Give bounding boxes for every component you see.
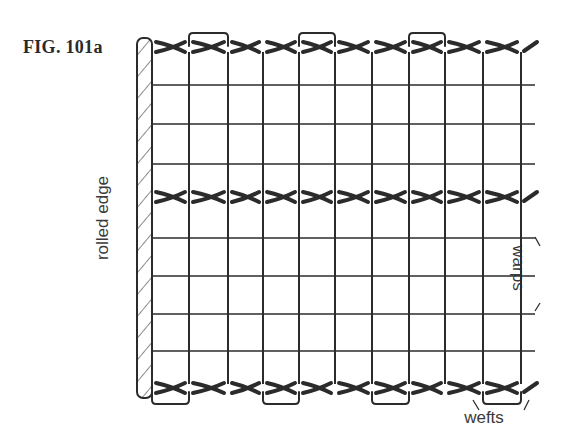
warp-threads <box>189 52 521 384</box>
weft-rows <box>152 33 537 404</box>
rolled-edge <box>137 38 152 398</box>
grid-lines <box>152 85 535 351</box>
weaving-diagram <box>0 0 581 442</box>
